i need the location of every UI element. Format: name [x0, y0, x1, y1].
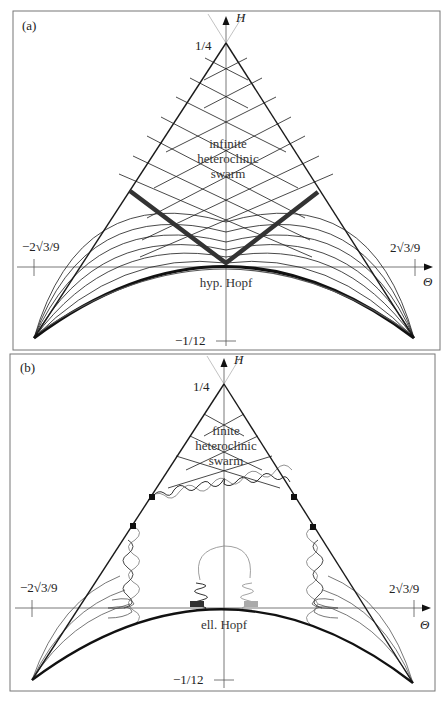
marker-square-icon — [149, 494, 155, 500]
svg-text:heteroclinic: heteroclinic — [197, 151, 259, 166]
panel-b-border — [10, 354, 435, 691]
marker-square-icon — [130, 523, 136, 529]
apex-label-b: 1/4 — [193, 379, 210, 394]
figure: (a) — [0, 0, 445, 705]
left-tick-label-a: −2√3/9 — [22, 239, 60, 254]
panel-a-label: (a) — [22, 18, 36, 33]
theta-axis-label-b: Θ — [420, 617, 430, 632]
svg-text:heteroclinic: heteroclinic — [195, 438, 257, 453]
marker-square-icon — [291, 494, 297, 500]
svg-text:swarm: swarm — [209, 453, 244, 468]
right-tick-label-b: 2√3/9 — [389, 581, 419, 596]
svg-text:finite: finite — [212, 423, 240, 438]
h-axis-label-a: H — [235, 10, 246, 25]
bottom-label-a: −1/12 — [175, 333, 205, 348]
panel-b-label: (b) — [20, 360, 35, 375]
hopf-label-b: ell. Hopf — [201, 617, 248, 632]
apex-label-a: 1/4 — [195, 38, 212, 53]
bottom-label-b: −1/12 — [173, 672, 203, 687]
svg-text:swarm: swarm — [211, 166, 246, 181]
h-axis-label-b: H — [233, 352, 244, 367]
svg-text:infinite: infinite — [209, 136, 247, 151]
theta-axis-label-a: Θ — [423, 274, 433, 289]
panel-a: (a) — [13, 10, 440, 350]
right-tick-label-a: 2√3/9 — [390, 240, 420, 255]
left-tick-label-b: −2√3/9 — [20, 580, 58, 595]
panel-b: (b) — [10, 352, 435, 691]
marker-square-icon — [310, 524, 316, 530]
hopf-label-a: hyp. Hopf — [200, 275, 253, 290]
